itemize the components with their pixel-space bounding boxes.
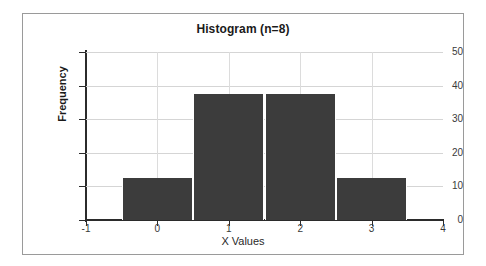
chart-panel: Histogram (n=8) Frequency X Values 01020… [22, 13, 464, 255]
x-tick-label: 4 [423, 223, 463, 234]
y-tick-mark [79, 52, 85, 53]
x-tick-label: 2 [280, 223, 320, 234]
x-tick-label: -1 [66, 223, 106, 234]
y-tick-mark [79, 220, 85, 221]
histogram-bar [193, 94, 264, 220]
y-tick-mark [79, 153, 85, 154]
x-tick-label: 0 [137, 223, 177, 234]
x-tick-label: 1 [209, 223, 249, 234]
histogram-bar [122, 178, 193, 220]
gridline-horizontal [86, 52, 443, 53]
gridline-horizontal [86, 86, 443, 87]
histogram-bar [336, 178, 407, 220]
histogram-bar [265, 94, 336, 220]
y-tick-mark [79, 86, 85, 87]
plot-area [86, 52, 443, 220]
y-axis-label: Frequency [56, 49, 68, 139]
x-axis-label: X Values [23, 235, 463, 247]
y-tick-mark [79, 186, 85, 187]
chart-title: Histogram (n=8) [23, 22, 463, 36]
y-tick-mark [79, 119, 85, 120]
x-tick-label: 3 [352, 223, 392, 234]
